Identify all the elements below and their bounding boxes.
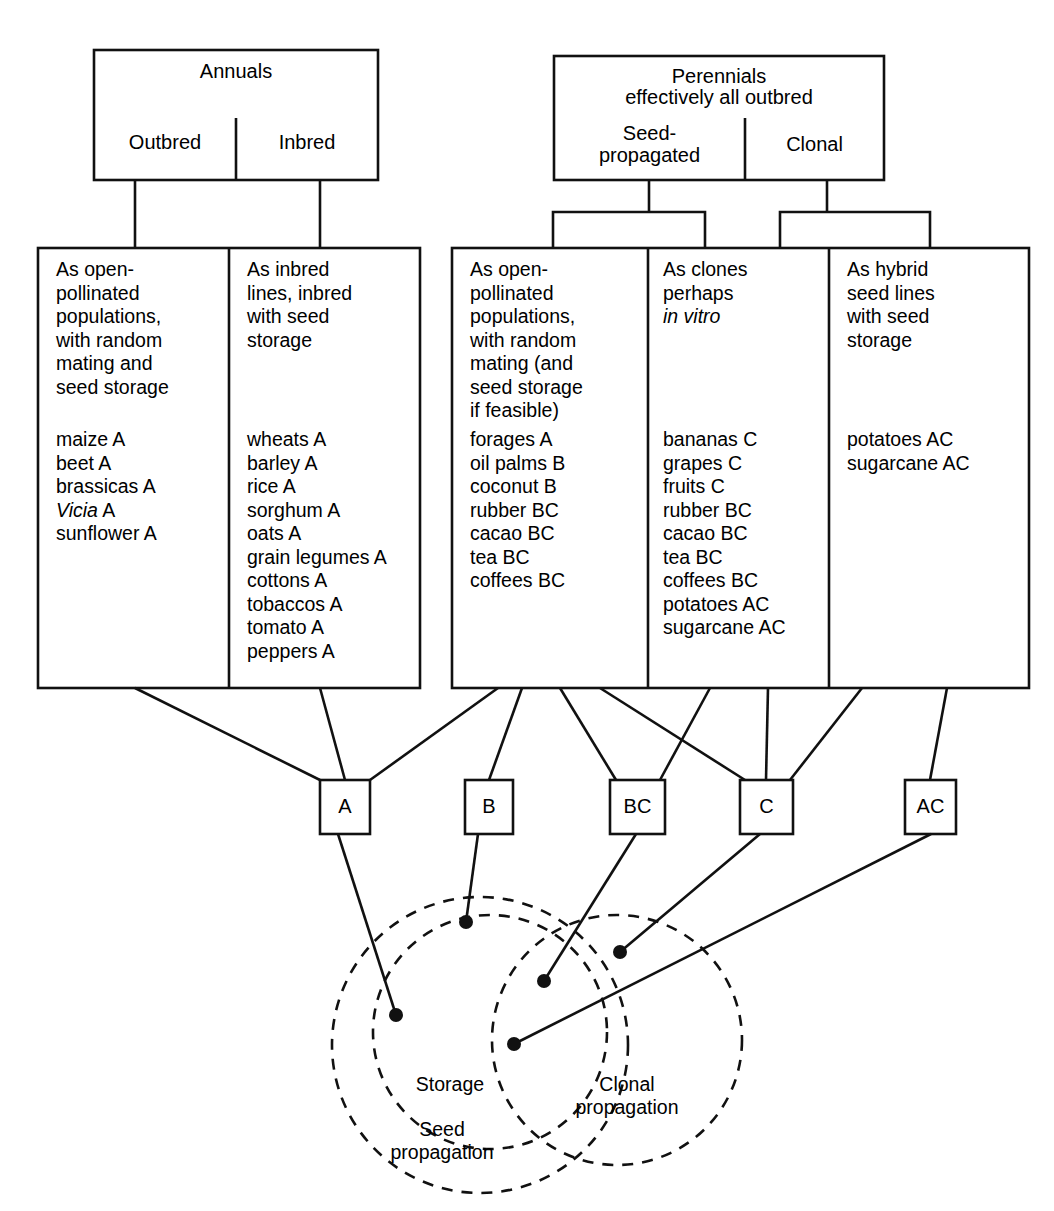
code-box-label-b: B	[465, 795, 513, 819]
crop-item: sugarcane AC	[663, 616, 786, 640]
crop-item: tea BC	[470, 546, 565, 570]
crop-item: potatoes AC	[663, 593, 786, 617]
code-box-label-c: C	[740, 795, 793, 819]
link-seedprop-to-B	[489, 688, 522, 780]
column-description-annuals-inbred: As inbred lines, inbred with seed storag…	[247, 258, 352, 352]
crop-item: tea BC	[663, 546, 786, 570]
link-seedprop-to-A	[370, 688, 498, 780]
crop-item: tomato A	[247, 616, 387, 640]
diagram-canvas: Annuals Outbred Inbred Perennials effect…	[0, 0, 1054, 1211]
column-description-annuals-outbred: As open- pollinated populations, with ra…	[56, 258, 169, 399]
annuals-subhead-inbred: Inbred	[236, 131, 378, 155]
link-clones-to-C	[766, 688, 768, 780]
column-items-perennials-hybrid: potatoes ACsugarcane AC	[847, 428, 970, 475]
crop-item: oats A	[247, 522, 387, 546]
crop-item-code: A	[98, 499, 115, 521]
crop-item: cacao BC	[470, 522, 565, 546]
crop-item: grain legumes A	[247, 546, 387, 570]
column-description-perennials-seed-propagated: As open- pollinated populations, with ra…	[470, 258, 583, 423]
stem-BC-to-dot	[544, 834, 636, 981]
dot-C	[613, 945, 627, 959]
link-inbred-to-A	[320, 688, 345, 780]
crop-item: rubber BC	[470, 499, 565, 523]
crop-item: sunflower A	[56, 522, 157, 546]
crop-item: oil palms B	[470, 452, 565, 476]
code-box-label-bc: BC	[610, 795, 665, 819]
crop-item: wheats A	[247, 428, 387, 452]
crop-item: bananas C	[663, 428, 786, 452]
code-box-label-ac: AC	[905, 795, 956, 819]
column-description-perennials-clones: As clonesperhapsin vitro	[663, 258, 748, 329]
code-box-label-a: A	[320, 795, 370, 819]
dot-B	[459, 915, 473, 929]
crop-item: coffees BC	[470, 569, 565, 593]
perennials-heading-line2: effectively all outbred	[554, 86, 884, 110]
link-hybrid-to-C	[790, 688, 862, 780]
dot-BC	[537, 974, 551, 988]
column-items-annuals-inbred: wheats Abarley Arice Asorghum Aoats Agra…	[247, 428, 387, 663]
column-description-perennials-hybrid: As hybrid seed lines with seed storage	[847, 258, 935, 352]
crop-item: brassicas A	[56, 475, 157, 499]
crop-item: tobaccos A	[247, 593, 387, 617]
crop-item: cottons A	[247, 569, 387, 593]
perennials-subhead-clonal: Clonal	[745, 133, 884, 157]
crop-item: barley A	[247, 452, 387, 476]
link-seedprop-to-BC	[560, 688, 616, 780]
crop-item: sorghum A	[247, 499, 387, 523]
crop-item: cacao BC	[663, 522, 786, 546]
clonal-bracket	[780, 212, 930, 248]
crop-item: maize A	[56, 428, 157, 452]
storage-label: Storage	[370, 1073, 530, 1096]
link-hybrid-to-AC	[930, 688, 947, 780]
crop-item: beet A	[56, 452, 157, 476]
link-outbred-to-A	[135, 688, 320, 780]
perennials-subhead-seed-propagated: Seed- propagated	[554, 122, 745, 166]
crop-item: coffees BC	[663, 569, 786, 593]
link-clones-to-BC	[660, 688, 710, 780]
in-vitro-text: in vitro	[663, 305, 720, 327]
stem-A-to-dot	[338, 834, 396, 1015]
link-seedprop-to-C	[600, 688, 745, 780]
column-items-perennials-seed-propagated: forages Aoil palms Bcoconut Brubber BCca…	[470, 428, 565, 593]
crop-item: sugarcane AC	[847, 452, 970, 476]
description-line: in vitro	[663, 305, 748, 329]
crop-item: Vicia A	[56, 499, 157, 523]
stem-B-to-dot	[466, 834, 478, 922]
clonal-propagation-label: Clonal propagation	[527, 1073, 727, 1119]
diagram-lines-layer	[0, 0, 1054, 1211]
crop-item: rice A	[247, 475, 387, 499]
perennials-heading-line1: Perennials	[554, 65, 884, 89]
crop-item: peppers A	[247, 640, 387, 664]
crop-item: forages A	[470, 428, 565, 452]
crop-item: potatoes AC	[847, 428, 970, 452]
crop-item: fruits C	[663, 475, 786, 499]
stem-C-to-dot	[620, 834, 760, 952]
description-line: As clones	[663, 258, 748, 282]
annuals-subhead-outbred: Outbred	[94, 131, 236, 155]
crop-item: rubber BC	[663, 499, 786, 523]
crop-item: grapes C	[663, 452, 786, 476]
column-items-annuals-outbred: maize Abeet Abrassicas AVicia Asunflower…	[56, 428, 157, 546]
column-items-perennials-clones: bananas Cgrapes Cfruits Crubber BCcacao …	[663, 428, 786, 640]
description-line: perhaps	[663, 282, 748, 306]
annuals-heading: Annuals	[94, 60, 378, 84]
dot-A	[389, 1008, 403, 1022]
crop-item-name: Vicia	[56, 499, 98, 521]
crop-item: coconut B	[470, 475, 565, 499]
seed-bracket	[553, 212, 705, 248]
seed-propagation-label: Seed propagation	[352, 1118, 532, 1164]
dot-AC	[507, 1037, 521, 1051]
